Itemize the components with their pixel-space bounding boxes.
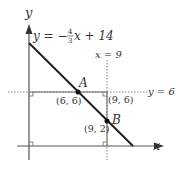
line-equation-prefix: y = −	[32, 29, 68, 43]
vline-label: x = 9	[95, 49, 122, 60]
point-B-label: B	[111, 113, 121, 127]
line-equation-num: 4	[68, 28, 73, 36]
x-axis-label: x	[153, 138, 161, 153]
point-A	[76, 90, 81, 95]
point-B-coord: (9, 2)	[84, 123, 110, 134]
y-axis-label: y	[24, 5, 33, 20]
hline-label: y = 6	[147, 86, 175, 97]
right-angle-mark	[103, 92, 107, 96]
corner-coord: (9, 6)	[108, 94, 134, 105]
y-axis-arrow-icon	[26, 24, 33, 34]
point-A-label: A	[78, 76, 88, 90]
line-equation-den: 3	[68, 37, 72, 45]
point-A-coord: (6, 6)	[56, 95, 82, 106]
coordinate-diagram: y x y = − 4 3 x + 14 x = 9 y = 6 A (6, 6…	[0, 0, 179, 169]
line-equation-suffix: x + 14	[74, 29, 114, 43]
